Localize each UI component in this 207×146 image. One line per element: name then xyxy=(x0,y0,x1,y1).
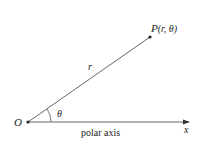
x-axis-label: x xyxy=(183,124,189,135)
angle-label: θ xyxy=(57,108,62,119)
polar-coordinates-diagram: O P(r, θ) r θ polar axis x xyxy=(0,0,207,146)
origin-point xyxy=(26,120,29,123)
angle-arc xyxy=(47,109,51,122)
origin-label: O xyxy=(14,116,22,128)
point-p xyxy=(148,35,151,38)
radius-label: r xyxy=(88,61,92,72)
radius-line xyxy=(28,37,150,122)
point-p-label: P(r, θ) xyxy=(150,22,178,35)
polar-axis-label: polar axis xyxy=(81,127,120,138)
